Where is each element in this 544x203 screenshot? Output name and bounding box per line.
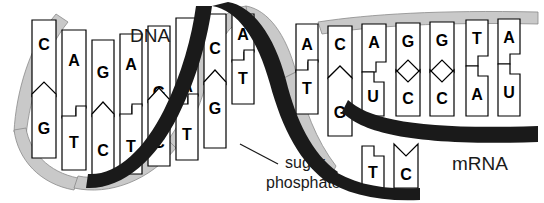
base-letter: C [400, 166, 412, 183]
base-pair: C G [32, 20, 56, 158]
base-letter: C [209, 40, 221, 57]
sugar-phosphate-leader-line [240, 144, 278, 164]
base-letter: C [97, 142, 109, 159]
dna-transcription-diagram: C G A T G C A T [0, 0, 544, 203]
base-letter: A [125, 56, 137, 73]
base-letter: G [38, 120, 50, 137]
base-letter: T [472, 30, 482, 47]
base-letter: G [209, 100, 221, 117]
base-letter: A [301, 36, 313, 53]
base-pair: A T [296, 24, 318, 114]
figure-canvas: C G A T G C A T [0, 0, 544, 203]
base-top [62, 30, 86, 118]
base-letter: A [368, 34, 380, 51]
base-letter: T [238, 70, 248, 87]
base-letter: T [126, 138, 136, 155]
base-pair: G C [92, 40, 114, 176]
base-bottom [92, 102, 114, 176]
base-letter: G [97, 64, 109, 81]
base-letter: C [402, 90, 414, 107]
base-letter: T [302, 80, 312, 97]
base-letter: U [503, 84, 515, 101]
base-pair: C G [204, 14, 226, 148]
base-letter: G [402, 33, 414, 50]
base-letter: C [38, 36, 50, 53]
sugar-phosphate-label-line2: phosphate [266, 174, 341, 191]
base-letter: A [503, 29, 515, 46]
base-letter: T [368, 164, 378, 181]
base-letter: T [69, 134, 79, 151]
base-letter: G [436, 32, 448, 49]
mrna-strand-group: U C C A U [362, 64, 520, 116]
base-letter: A [68, 52, 80, 69]
base-letter: T [182, 126, 192, 143]
base-letter: U [367, 88, 379, 105]
base-pair: A T [62, 30, 86, 170]
dna-label: DNA [130, 25, 170, 46]
base-letter: A [471, 86, 483, 103]
mrna-label: mRNA [452, 153, 508, 174]
base-letter: C [436, 90, 448, 107]
sugar-phosphate-label-line1: sugar [285, 154, 326, 171]
base-letter: C [334, 36, 346, 53]
